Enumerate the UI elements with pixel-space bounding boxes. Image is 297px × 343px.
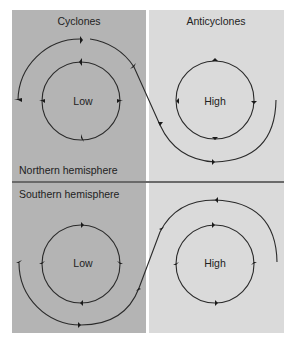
nh-high-isobar [176,61,254,139]
sh-high-isobar [176,225,254,303]
nh-low-isobar [42,62,120,140]
pressure-circulation-diagram [0,0,297,343]
nh-connector [90,39,160,125]
wind-arrow-icons [14,36,257,328]
sh-outer-arc [19,232,160,325]
nh-outer-arc-left [18,39,80,100]
sh-low-isobar [42,225,120,303]
